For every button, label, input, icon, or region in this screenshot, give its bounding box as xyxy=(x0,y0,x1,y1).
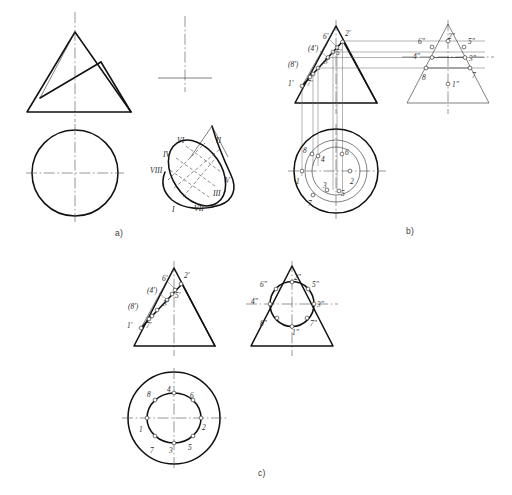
c-top-label-6: 6 xyxy=(190,391,194,400)
point-2-top xyxy=(348,169,352,173)
c-side-label-8: 8" xyxy=(260,319,268,328)
b-side-label-7: 7 xyxy=(472,71,476,80)
c-point-8-top xyxy=(153,398,157,402)
b-top-label-2: 2 xyxy=(350,177,354,186)
b-top-label-4: 4 xyxy=(321,155,325,164)
c-cone-front-outline xyxy=(134,268,215,346)
c-front-label-1: 1' xyxy=(127,321,133,330)
pictorial-label-II: II xyxy=(215,136,222,145)
b-top-label-8: 8 xyxy=(303,146,307,155)
drawing-sheet: VI II IV VIII V III I VII a) 6 xyxy=(0,0,512,495)
point-6-top xyxy=(340,152,344,156)
point-7-side xyxy=(468,66,472,70)
b-front-leaders xyxy=(320,40,337,57)
c-top-label-3: 3 xyxy=(168,446,173,455)
c-point-4-side xyxy=(268,302,272,306)
b-front-label-3: 3' xyxy=(323,57,330,66)
panel-c-front-view: 6' 2' (4') 5' (8') 3' 1' 7' xyxy=(127,261,215,356)
c-top-label-5: 5 xyxy=(188,443,192,452)
cone-right-edge xyxy=(101,62,131,112)
panel-a-pictorial-view: VI II IV VIII V III I VII xyxy=(150,126,237,217)
panel-a-graphics: VI II IV VIII V III I VII xyxy=(0,0,270,250)
b-side-label-4: 4" xyxy=(413,52,421,61)
panel-c-graphics: 6' 2' (4') 5' (8') 3' 1' 7' 2" 6" 5" 4" … xyxy=(112,256,372,491)
b-front-label-6: 6' xyxy=(323,32,329,41)
pictorial-label-IV: IV xyxy=(162,150,172,159)
b-top-label-1: 1 xyxy=(296,177,300,186)
b-cone-right-edge xyxy=(343,41,377,103)
panel-c-top-view: 8 4 6 1 2 3 5 7 xyxy=(122,368,228,470)
c-side-label-5: 5" xyxy=(312,280,320,289)
c-point-8-side xyxy=(275,316,279,320)
c-front-label-3: 3' xyxy=(162,299,169,308)
c-side-label-7: 7" xyxy=(310,319,318,328)
c-front-label-5: 5' xyxy=(175,291,181,300)
b-side-label-5: 5" xyxy=(468,37,476,46)
c-side-label-3: 3" xyxy=(316,300,325,309)
pictorial-label-VIII: VIII xyxy=(150,166,163,175)
panel-b-front-view: 6' 2' (4') 5' (8') 3' 1' 7' xyxy=(288,20,377,114)
c-side-label-4: 4" xyxy=(251,297,259,306)
panel-b-side-view: 2" 6" 5" 4" 3" 8 7 1" xyxy=(402,20,494,114)
b-side-label-2: 2" xyxy=(448,32,456,41)
c-point-3-top xyxy=(172,441,176,445)
point-8-side xyxy=(424,66,428,70)
c-side-label-1: 1" xyxy=(292,328,300,337)
c-point-7-side xyxy=(305,316,309,320)
panel-b-caption: b) xyxy=(406,226,414,236)
c-front-label-6: 6' xyxy=(162,274,168,283)
b-top-label-5: 5 xyxy=(341,189,345,198)
c-point-5-top xyxy=(191,434,195,438)
point-4-top xyxy=(316,154,320,158)
point-4-side xyxy=(430,56,434,60)
c-front-label-8: (8') xyxy=(128,302,139,311)
c-point-5-side xyxy=(306,287,310,291)
c-top-label-1: 1 xyxy=(139,425,143,434)
b-front-label-2: 2' xyxy=(345,29,351,38)
panel-c-caption: c) xyxy=(258,468,265,478)
c-point-8-front xyxy=(150,314,154,318)
c-top-label-7: 7 xyxy=(150,446,154,455)
c-point-2-front xyxy=(179,282,183,286)
c-top-label-8: 8 xyxy=(147,390,151,399)
pictorial-label-III: III xyxy=(212,189,221,198)
c-front-label-2: 2' xyxy=(184,271,190,280)
pictorial-label-V: V xyxy=(225,176,231,185)
c-point-3-side xyxy=(312,302,316,306)
b-side-label-1: 1" xyxy=(452,80,460,89)
cutting-plane-line xyxy=(40,62,101,98)
panel-b-graphics: 6' 2' (4') 5' (8') 3' 1' 7' xyxy=(280,14,512,244)
c-cone-right-edge xyxy=(182,284,215,346)
point-1-side xyxy=(446,82,450,86)
c-top-label-4: 4 xyxy=(167,385,171,394)
c-point-6-side xyxy=(274,287,278,291)
b-front-label-4: (4') xyxy=(308,44,319,53)
panel-a-axis-cross xyxy=(158,16,212,92)
point-8-top xyxy=(310,152,314,156)
b-side-label-3: 3" xyxy=(468,54,477,63)
c-point-1-top xyxy=(145,416,149,420)
b-side-label-8: 8 xyxy=(422,73,426,82)
c-side-label-6: 6" xyxy=(260,280,268,289)
point-1-top xyxy=(300,169,304,173)
c-point-5-front xyxy=(170,292,174,296)
c-top-label-2: 2 xyxy=(202,423,206,432)
panel-c-side-view: 2" 6" 5" 4" 3" 8" 7" 1" xyxy=(246,261,338,356)
c-point-4-front xyxy=(155,308,159,312)
b-side-label-6: 6" xyxy=(418,37,426,46)
c-front-label-7: 7' xyxy=(146,321,152,330)
pictorial-label-VI: VI xyxy=(177,136,185,145)
c-side-label-2: 2" xyxy=(294,273,302,282)
b-top-label-3: 3 xyxy=(322,181,327,190)
b-cone-left-edge-thin xyxy=(302,26,336,86)
c-front-label-4: (4') xyxy=(147,286,158,295)
b-front-label-7: 7' xyxy=(307,79,313,88)
cone-front-outline xyxy=(27,32,131,112)
cone-pictorial-left-edge xyxy=(190,126,212,158)
c-point-4-top xyxy=(172,391,176,395)
b-front-label-8: (8') xyxy=(288,60,299,69)
b-front-label-1: 1' xyxy=(288,79,294,88)
b-top-label-7: 7 xyxy=(308,199,312,208)
panel-a-front-view xyxy=(27,12,131,122)
c-point-2-top xyxy=(199,416,203,420)
